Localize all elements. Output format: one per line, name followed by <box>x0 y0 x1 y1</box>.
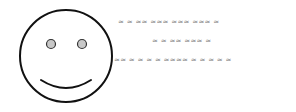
smiley-face-icon <box>0 0 120 112</box>
right-eye <box>78 40 87 49</box>
squiggle-text-line-3: ≈≈ ≈ ≈ ≈ ≈ ≈≈≈≈ ≈ ≈ ≈ ≈ ≈ <box>114 56 232 64</box>
squiggle-text-line-1: ≈ ≈ ≈≈ ≈≈≈ ≈≈≈ ≈≈≈ ≈ <box>118 18 219 26</box>
squiggle-text-line-2: ≈ ≈ ≈≈ ≈≈≈ ≈ <box>152 37 211 45</box>
smile-mouth <box>41 80 91 88</box>
left-eye <box>47 40 56 49</box>
